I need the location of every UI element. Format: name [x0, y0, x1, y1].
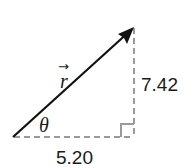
arrowhead-icon [118, 27, 134, 44]
vertical-component-value: 7.42 [141, 75, 178, 94]
angle-label: θ [39, 115, 49, 135]
vector-symbol: r [60, 71, 68, 91]
horizontal-component-value: 5.20 [56, 148, 93, 167]
right-angle-marker [121, 124, 134, 137]
vector-r-arrow [13, 30, 131, 137]
